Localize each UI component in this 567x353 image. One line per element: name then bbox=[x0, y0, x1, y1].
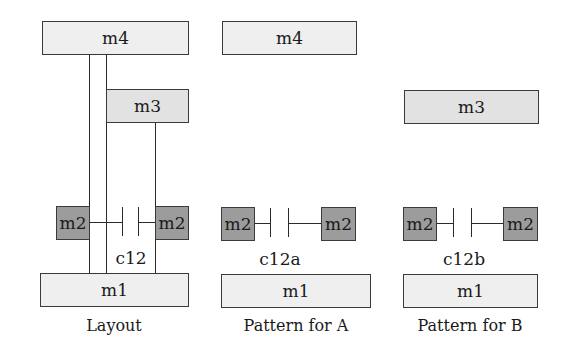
layout-cap-plate-left bbox=[122, 207, 123, 236]
layout-m1-label: m1 bbox=[101, 282, 128, 299]
pattern-a-m4-label: m4 bbox=[276, 30, 303, 47]
layout-capacitor-label: c12 bbox=[115, 250, 146, 267]
pattern-b-m2-right-label: m2 bbox=[507, 216, 534, 233]
layout-m4-block: m4 bbox=[42, 21, 189, 55]
pattern-b-m2-left-label: m2 bbox=[407, 216, 434, 233]
pattern-a-m2-left-block: m2 bbox=[221, 207, 255, 241]
pattern-a-m1-label: m1 bbox=[283, 283, 310, 300]
layout-m4-label: m4 bbox=[102, 30, 129, 47]
pattern-b-cap-lead-right bbox=[471, 223, 503, 224]
pattern-a-m4-block: m4 bbox=[222, 21, 357, 55]
layout-m2-left-block: m2 bbox=[56, 206, 90, 240]
pattern-a-capacitor-label: c12a bbox=[259, 251, 300, 268]
pattern-b-m1-label: m1 bbox=[457, 283, 484, 300]
layout-wire-m4-right bbox=[106, 54, 107, 273]
pattern-a-m2-right-label: m2 bbox=[325, 216, 352, 233]
pattern-b-m2-right-block: m2 bbox=[503, 207, 538, 241]
layout-m3-block: m3 bbox=[106, 89, 189, 123]
layout-m3-label: m3 bbox=[134, 98, 161, 115]
pattern-a-m2-right-block: m2 bbox=[321, 207, 356, 241]
pattern-a-caption: Pattern for A bbox=[244, 318, 349, 334]
layout-caption: Layout bbox=[86, 318, 142, 334]
pattern-a-cap-lead-left bbox=[255, 223, 270, 224]
pattern-a-cap-plate-left bbox=[270, 208, 271, 237]
pattern-b-m1-block: m1 bbox=[403, 274, 538, 308]
layout-wire-m4-left bbox=[89, 54, 90, 273]
layout-cap-lead-right bbox=[138, 222, 155, 223]
layout-m1-block: m1 bbox=[40, 273, 189, 307]
pattern-b-m3-label: m3 bbox=[458, 99, 485, 116]
pattern-b-cap-plate-left bbox=[453, 208, 454, 237]
layout-m2-right-label: m2 bbox=[159, 215, 186, 232]
pattern-b-capacitor-label: c12b bbox=[443, 251, 485, 268]
layout-wire-m3 bbox=[155, 122, 156, 273]
pattern-b-caption: Pattern for B bbox=[418, 318, 523, 334]
pattern-a-m2-left-label: m2 bbox=[225, 216, 252, 233]
pattern-b-m3-block: m3 bbox=[404, 90, 539, 124]
layout-m2-left-label: m2 bbox=[60, 215, 87, 232]
layout-cap-lead-left bbox=[90, 222, 122, 223]
pattern-a-m1-block: m1 bbox=[221, 274, 371, 308]
pattern-b-m2-left-block: m2 bbox=[403, 207, 437, 241]
pattern-b-cap-lead-left bbox=[437, 223, 453, 224]
pattern-a-cap-lead-right bbox=[288, 223, 321, 224]
layout-m2-right-block: m2 bbox=[155, 206, 189, 240]
